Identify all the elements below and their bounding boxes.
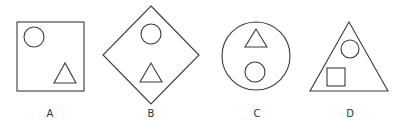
label-b: B bbox=[148, 108, 155, 119]
inner-circle-b bbox=[141, 24, 161, 44]
outer-circle-c bbox=[222, 22, 290, 90]
inner-circle-d bbox=[341, 40, 359, 58]
figures-canvas bbox=[0, 0, 405, 128]
inner-triangle-a bbox=[54, 63, 76, 83]
inner-triangle-c bbox=[245, 29, 267, 47]
figure-c bbox=[222, 22, 290, 90]
outer-square-a bbox=[17, 22, 84, 91]
inner-triangle-b bbox=[140, 63, 162, 82]
inner-circle-a bbox=[24, 27, 44, 47]
figure-d bbox=[310, 22, 388, 91]
label-d: D bbox=[346, 108, 354, 119]
inner-square-d bbox=[327, 68, 345, 86]
outer-triangle-d bbox=[310, 22, 388, 91]
label-c: C bbox=[254, 108, 261, 119]
outer-diamond-b bbox=[103, 6, 199, 104]
inner-circle-c bbox=[245, 62, 265, 82]
figure-a bbox=[17, 22, 84, 91]
figure-b bbox=[103, 6, 199, 104]
label-a: A bbox=[47, 108, 54, 119]
